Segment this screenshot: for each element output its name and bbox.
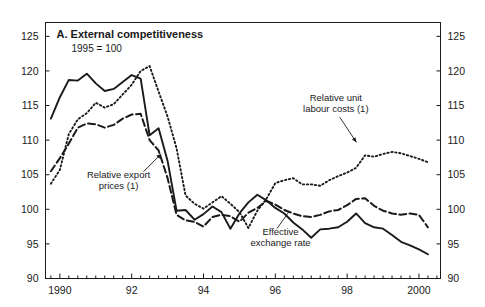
x-axis-tick-label: 92: [126, 284, 138, 296]
y-axis-tick-label-right: 115: [448, 99, 465, 111]
y-axis-tick-label-left: 110: [22, 134, 39, 146]
y-axis-tick-label-right: 100: [448, 203, 466, 215]
annotation-effective-exchange-rate: Effectiveexchange rate: [250, 212, 310, 248]
external-competitiveness-chart: 9090959510010010510511011011511512012012…: [0, 0, 485, 307]
annotation-label: exchange rate: [250, 237, 310, 248]
annotation-label: labour costs (1): [303, 103, 368, 114]
annotation-label: Effective: [262, 226, 298, 237]
y-axis-tick-label-left: 90: [27, 272, 39, 284]
y-axis-tick-label-right: 105: [448, 168, 466, 180]
x-axis-tick-label: 1990: [48, 284, 72, 296]
annotation-label: Relative export: [87, 169, 151, 180]
y-axis-tick-label-left: 95: [27, 238, 39, 250]
chart-subtitle: 1995 = 100: [72, 43, 123, 54]
annotation-arrow-head: [352, 137, 356, 142]
x-axis-tick-label: 96: [269, 284, 281, 296]
annotation-label: prices (1): [99, 180, 139, 191]
y-axis-tick-label-right: 120: [448, 65, 466, 77]
y-axis-tick-label-right: 110: [448, 134, 465, 146]
y-axis-tick-label-left: 100: [21, 203, 39, 215]
plot-frame: [46, 23, 441, 279]
y-axis-tick-label-right: 125: [448, 30, 466, 42]
chart-figure: 9090959510010010510511011011511512012012…: [0, 0, 485, 307]
annotation-label: Relative unit: [310, 92, 363, 103]
y-axis-tick-label-right: 90: [448, 272, 460, 284]
series-line-effective-exchange-rate: [51, 74, 428, 255]
y-axis-tick-label-left: 105: [21, 168, 39, 180]
y-axis-tick-label-right: 95: [448, 238, 460, 250]
y-axis-tick-label-left: 125: [21, 30, 39, 42]
x-axis-tick-label: 2000: [407, 284, 431, 296]
x-axis-tick-label: 98: [341, 284, 353, 296]
y-axis-tick-label-left: 115: [22, 99, 39, 111]
annotation-relative-unit-labour-costs: Relative unitlabour costs (1): [303, 92, 368, 143]
chart-title: A. External competitiveness: [57, 28, 204, 40]
y-axis-tick-label-left: 120: [21, 65, 39, 77]
x-axis-tick-label: 94: [198, 284, 210, 296]
annotation-relative-export-prices: Relative exportprices (1): [87, 154, 161, 191]
